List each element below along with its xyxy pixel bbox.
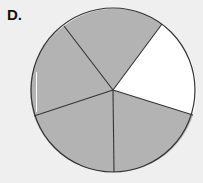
- fraction-circle-diagram: [0, 0, 203, 183]
